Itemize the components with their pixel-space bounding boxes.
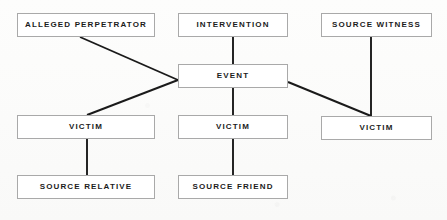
- edge-event-victim-right: [288, 82, 371, 116]
- node-source-witness[interactable]: SOURCE WITNESS: [321, 13, 432, 37]
- node-label-victim-center: VICTIM: [216, 123, 250, 131]
- node-victim-left[interactable]: VICTIM: [17, 115, 155, 139]
- node-victim-right[interactable]: VICTIM: [321, 116, 432, 140]
- node-label-source-witness: SOURCE WITNESS: [332, 21, 421, 29]
- node-intervention[interactable]: INTERVENTION: [178, 13, 288, 37]
- node-label-victim-left: VICTIM: [69, 123, 103, 131]
- node-label-victim-right: VICTIM: [359, 124, 393, 132]
- node-source-relative[interactable]: SOURCE RELATIVE: [17, 175, 155, 199]
- node-event[interactable]: EVENT: [178, 64, 288, 88]
- diagram-canvas: ALLEGED PERPETRATORINTERVENTIONSOURCE WI…: [0, 0, 447, 220]
- node-label-intervention: INTERVENTION: [196, 21, 269, 29]
- edge-alleged-perpetrator-event: [80, 37, 178, 80]
- node-label-source-friend: SOURCE FRIEND: [192, 183, 273, 191]
- node-source-friend[interactable]: SOURCE FRIEND: [178, 175, 288, 199]
- node-label-alleged-perpetrator: ALLEGED PERPETRATOR: [25, 21, 147, 29]
- node-label-event: EVENT: [217, 72, 249, 80]
- node-alleged-perpetrator[interactable]: ALLEGED PERPETRATOR: [17, 13, 155, 37]
- node-label-source-relative: SOURCE RELATIVE: [40, 183, 133, 191]
- node-victim-center[interactable]: VICTIM: [178, 115, 288, 139]
- edge-event-victim-left: [87, 80, 178, 115]
